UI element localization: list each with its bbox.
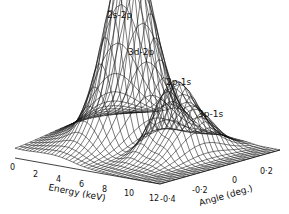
angle-tick-0: 0 [232, 176, 237, 185]
surface-plot-figure: 2s-2p 3d-2p 2p-1s 3p-1s 0 2 4 6 8 10 12 … [0, 0, 289, 214]
angle-tick-neg02: -0·2 [192, 186, 208, 195]
energy-tick-2: 2 [33, 170, 38, 179]
energy-tick-0: 0 [10, 163, 15, 172]
peak-label-3d-2p: 3d-2p [128, 47, 154, 57]
energy-tick-10: 10 [124, 189, 134, 198]
energy-tick-12: 12 [149, 194, 159, 203]
peak-label-2s-2p: 2s-2p [107, 10, 132, 20]
peak-label-3p-1s: 3p-1s [198, 109, 223, 119]
angle-tick-02: 0·2 [260, 167, 273, 176]
energy-axis-label: Energy (keV) [48, 182, 107, 203]
wireframe-surface [15, 0, 280, 184]
surface-plot-svg: 2s-2p 3d-2p 2p-1s 3p-1s 0 2 4 6 8 10 12 … [0, 0, 289, 214]
angle-tick-neg04: -0·4 [160, 195, 176, 204]
peak-label-2p-1s: 2p-1s [166, 77, 191, 87]
